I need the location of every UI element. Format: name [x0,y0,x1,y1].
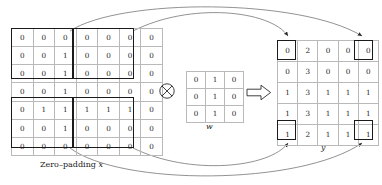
w-cell: 0 [225,89,244,106]
x-cell: 0 [98,137,120,155]
y-cell: 1 [358,104,378,125]
input-matrix-caption: Zero–padding x [40,160,103,169]
x-cell: 0 [76,65,98,83]
x-cell: 1 [55,83,77,101]
table-row: 0 0 1 0 0 0 0 [12,83,163,101]
x-cell: 0 [12,137,34,155]
y-cell: 0 [318,62,338,83]
input-matrix-x: 0 0 0 0 0 0 0 0 0 1 0 0 0 0 0 0 1 0 [11,28,163,156]
y-cell: 0 [278,41,298,62]
caption-variable: x [98,160,103,169]
table-row: 0 1 0 [187,89,244,106]
table-row: 0 1 0 [187,72,244,89]
w-cell: 0 [187,89,206,106]
x-cell: 0 [141,101,163,119]
x-cell: 0 [33,65,55,83]
x-cell: 0 [33,29,55,47]
x-cell: 0 [98,83,120,101]
x-cell: 0 [119,119,141,137]
y-cell: 0 [358,62,378,83]
y-cell: 3 [298,104,318,125]
y-cell: 1 [278,83,298,104]
y-cell: 1 [358,125,378,146]
w-cell: 0 [225,72,244,89]
x-cell: 0 [33,119,55,137]
x-cell: 1 [76,101,98,119]
x-cell: 0 [33,137,55,155]
x-cell: 0 [76,47,98,65]
x-cell: 1 [119,101,141,119]
x-cell: 0 [98,65,120,83]
x-cell: 0 [119,47,141,65]
x-cell: 0 [33,47,55,65]
table-row: 0 3 0 0 0 [278,62,379,83]
x-cell: 0 [12,65,34,83]
x-cell: 0 [119,137,141,155]
x-cell: 0 [12,83,34,101]
y-cell: 2 [298,125,318,146]
x-cell: 1 [55,47,77,65]
x-cell: 0 [55,137,77,155]
table-row: 0 0 1 0 0 0 0 [12,65,163,83]
x-cell: 0 [76,29,98,47]
x-cell: 0 [141,29,163,47]
y-cell: 1 [278,125,298,146]
table-row: 1 3 1 1 1 [278,104,379,125]
x-cell: 0 [76,83,98,101]
table-row: 1 3 1 1 1 [278,83,379,104]
w-cell: 1 [206,106,225,123]
y-cell: 0 [338,62,358,83]
x-cell: 0 [12,101,34,119]
y-cell: 1 [358,83,378,104]
table-row: 0 2 0 0 0 [278,41,379,62]
y-cell: 2 [298,41,318,62]
y-cell: 1 [318,104,338,125]
x-cell: 0 [55,29,77,47]
kernel-matrix-w: 0 1 0 0 1 0 0 1 0 [186,71,244,123]
y-cell: 1 [318,83,338,104]
x-cell: 0 [12,29,34,47]
w-cell: 0 [187,106,206,123]
table-row: 0 0 0 0 0 0 0 [12,29,163,47]
x-cell: 1 [55,65,77,83]
table-row: 0 1 1 1 1 1 0 [12,101,163,119]
x-cell: 0 [141,65,163,83]
y-cell: 0 [358,41,378,62]
x-cell: 0 [76,119,98,137]
y-cell: 0 [338,41,358,62]
y-cell: 0 [318,41,338,62]
x-cell: 0 [98,47,120,65]
result-arrow-icon [246,84,272,101]
kernel-label: w [206,122,213,131]
output-matrix-y: 0 2 0 0 0 0 3 0 0 0 1 3 1 1 1 1 [277,40,379,146]
w-cell: 0 [187,72,206,89]
x-cell: 0 [76,137,98,155]
x-cell: 0 [98,29,120,47]
w-cell: 0 [225,106,244,123]
y-cell: 3 [298,62,318,83]
x-cell: 0 [141,137,163,155]
y-cell: 1 [338,83,358,104]
y-cell: 0 [278,62,298,83]
x-cell: 0 [98,119,120,137]
x-cell: 1 [33,101,55,119]
x-cell: 0 [141,119,163,137]
x-cell: 0 [119,65,141,83]
x-cell: 1 [55,119,77,137]
table-row: 1 2 1 1 1 [278,125,379,146]
w-cell: 1 [206,72,225,89]
table-row: 0 0 1 0 0 0 0 [12,47,163,65]
x-cell: 0 [33,83,55,101]
x-cell: 0 [141,47,163,65]
y-cell: 1 [338,104,358,125]
table-row: 0 0 1 0 0 0 0 [12,119,163,137]
w-cell: 1 [206,89,225,106]
table-row: 0 0 0 0 0 0 0 [12,137,163,155]
y-cell: 1 [278,104,298,125]
x-cell: 0 [12,119,34,137]
x-cell: 1 [55,101,77,119]
circled-times-icon [158,82,176,100]
output-label: y [321,143,325,152]
table-row: 0 1 0 [187,106,244,123]
x-cell: 0 [12,47,34,65]
